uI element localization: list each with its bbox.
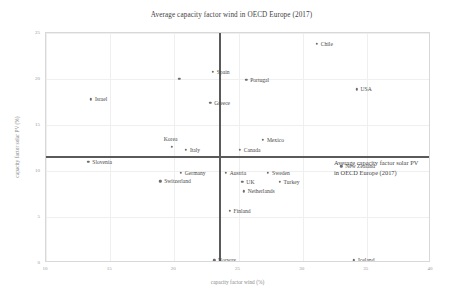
y-tick-label: 10 (28, 168, 40, 173)
x-tick-label: 15 (107, 266, 112, 271)
data-point-label: Iceland (358, 257, 374, 262)
y-tick-label: 20 (28, 76, 40, 81)
data-point-label: Mexico (267, 137, 284, 143)
data-point-label: Israel (95, 96, 107, 102)
y-tick-label: 25 (28, 30, 40, 35)
x-tick-label: 35 (363, 266, 368, 271)
wind-average-reference-line (219, 33, 220, 261)
data-point-label: USA (361, 86, 372, 92)
data-point-label: Greece (214, 100, 230, 106)
data-point-label: Chile (321, 41, 333, 47)
data-point[interactable] (278, 181, 280, 183)
plot-area: ChileSpainPortugalUSAIsraelGreeceMexicoK… (45, 32, 430, 262)
data-point-label: Austria (230, 170, 246, 176)
data-point[interactable] (171, 146, 173, 148)
gridline-vertical (110, 33, 111, 261)
data-point[interactable] (185, 149, 187, 151)
data-point[interactable] (316, 43, 318, 45)
chart-figure: Average capacity factor wind in OECD Eur… (0, 0, 463, 300)
data-point-label: Turkey (284, 179, 300, 185)
gridline-vertical (46, 33, 47, 261)
x-tick-label: 20 (171, 266, 176, 271)
gridline-horizontal (46, 217, 429, 218)
data-point-label: Canada (244, 147, 261, 153)
data-point[interactable] (241, 181, 243, 183)
gridline-horizontal (46, 33, 429, 34)
gridline-vertical (303, 33, 304, 261)
data-point[interactable] (355, 88, 357, 90)
data-point-label: Sweden (272, 170, 290, 176)
data-point-label: Netherlands (248, 188, 275, 194)
data-point[interactable] (209, 102, 211, 104)
data-point-label: Spain (217, 69, 230, 75)
data-point[interactable] (228, 209, 230, 211)
y-tick-label: 5 (28, 214, 40, 219)
y-tick-label: 0 (28, 260, 40, 265)
gridline-horizontal (46, 125, 429, 126)
gridline-horizontal (46, 79, 429, 80)
data-point-label: Portugal (250, 77, 269, 83)
data-point[interactable] (90, 98, 92, 100)
x-tick-label: 10 (43, 266, 48, 271)
solar-annotation-line-2: in OECD Europe (2017) (334, 168, 418, 178)
data-point-label: UK (246, 179, 254, 185)
data-point[interactable] (159, 180, 161, 182)
x-tick-label: 25 (235, 266, 240, 271)
data-point[interactable] (262, 139, 264, 141)
data-point-label: Germany (185, 170, 206, 176)
data-point-label: Norway (218, 257, 236, 262)
x-axis-label: capacity factor wind (%) (45, 279, 430, 285)
data-point-label: Switzerland (164, 178, 191, 184)
chart-title: Average capacity factor wind in OECD Eur… (0, 11, 463, 19)
gridline-vertical (239, 33, 240, 261)
y-axis-label: capacity factor solar PV (%) (14, 116, 20, 177)
solar-average-annotation: Average capacity factor solar PV in OECD… (334, 158, 418, 177)
gridline-vertical (174, 33, 175, 261)
x-tick-label: 40 (428, 266, 433, 271)
y-tick-label: 15 (28, 122, 40, 127)
solar-annotation-line-1: Average capacity factor solar PV (334, 158, 418, 168)
x-tick-label: 30 (299, 266, 304, 271)
data-point-label: Slovenia (92, 159, 112, 165)
data-point-label: Italy (190, 147, 200, 153)
data-point[interactable] (212, 70, 214, 72)
data-point[interactable] (242, 190, 244, 192)
data-point[interactable] (87, 161, 89, 163)
data-point[interactable] (213, 259, 215, 261)
data-point[interactable] (353, 259, 355, 261)
data-point-label: Korea (164, 136, 178, 142)
data-point-label: Finland (234, 208, 251, 214)
gridline-vertical (367, 33, 368, 261)
